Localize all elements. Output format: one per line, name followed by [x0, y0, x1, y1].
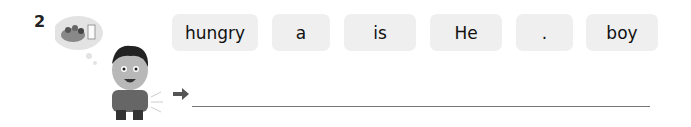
answer-line[interactable]: [192, 106, 650, 107]
word-tile[interactable]: boy: [586, 14, 658, 51]
question-number: 2: [34, 12, 45, 31]
word-tile[interactable]: hungry: [172, 14, 258, 51]
word-tile[interactable]: is: [344, 14, 416, 51]
word-tile[interactable]: He: [430, 14, 502, 51]
word-tile[interactable]: a: [272, 14, 330, 51]
arrow-right-icon: [172, 86, 190, 102]
hungry-boy-illustration: [55, 12, 165, 120]
word-tile[interactable]: .: [516, 14, 573, 51]
